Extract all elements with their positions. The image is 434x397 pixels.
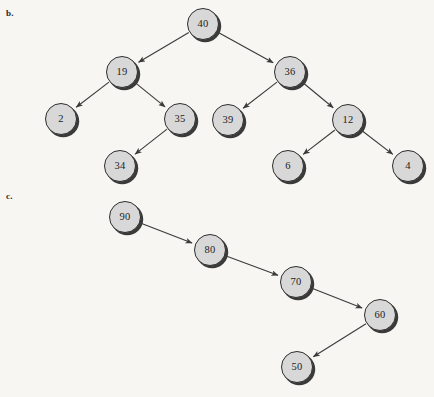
tree-node-label: 2 bbox=[58, 114, 63, 125]
tree-edge bbox=[217, 32, 273, 63]
part-label-c: c. bbox=[6, 191, 13, 201]
tree-node-80: 80 bbox=[194, 234, 226, 266]
tree-node-12: 12 bbox=[332, 104, 364, 136]
tree-edge bbox=[225, 256, 278, 276]
tree-edge bbox=[303, 130, 335, 154]
tree-node-label: 39 bbox=[223, 115, 234, 126]
tree-edge bbox=[140, 223, 192, 243]
part-label-b: b. bbox=[6, 8, 14, 18]
tree-node-label: 35 bbox=[175, 114, 186, 125]
tree-edge bbox=[76, 82, 109, 107]
tree-node-2: 2 bbox=[45, 103, 77, 135]
tree-node-label: 6 bbox=[285, 161, 290, 172]
tree-node-label: 50 bbox=[292, 362, 303, 373]
tree-node-60: 60 bbox=[364, 299, 396, 331]
tree-edge bbox=[361, 130, 393, 154]
tree-node-50: 50 bbox=[281, 351, 313, 383]
tree-node-label: 12 bbox=[343, 115, 354, 126]
tree-edge bbox=[139, 32, 189, 62]
tree-node-label: 70 bbox=[291, 277, 302, 288]
tree-node-35: 35 bbox=[164, 103, 196, 135]
tree-node-39: 39 bbox=[212, 104, 244, 136]
tree-edge bbox=[313, 324, 366, 357]
tree-node-label: 34 bbox=[115, 161, 126, 172]
tree-node-label: 90 bbox=[120, 212, 131, 223]
tree-node-70: 70 bbox=[280, 266, 312, 298]
tree-node-19: 19 bbox=[106, 56, 138, 88]
tree-node-36: 36 bbox=[274, 56, 306, 88]
tree-edge bbox=[243, 82, 277, 108]
tree-node-6: 6 bbox=[272, 150, 304, 182]
tree-node-label: 40 bbox=[198, 19, 209, 30]
tree-edge bbox=[303, 83, 334, 108]
tree-node-label: 80 bbox=[205, 245, 216, 256]
tree-node-label: 19 bbox=[117, 67, 128, 78]
tree-node-label: 4 bbox=[405, 161, 410, 172]
tree-node-90: 90 bbox=[109, 201, 141, 233]
tree-node-label: 60 bbox=[375, 310, 386, 321]
tree-node-40: 40 bbox=[187, 8, 219, 40]
tree-node-4: 4 bbox=[392, 150, 424, 182]
figure-root: b. c. 401936235391234649080706050 bbox=[0, 0, 434, 397]
tree-node-34: 34 bbox=[104, 150, 136, 182]
tree-edge bbox=[135, 129, 167, 154]
tree-edges bbox=[0, 0, 434, 397]
tree-edge bbox=[311, 288, 362, 308]
tree-edge bbox=[135, 82, 165, 107]
tree-node-label: 36 bbox=[285, 67, 296, 78]
